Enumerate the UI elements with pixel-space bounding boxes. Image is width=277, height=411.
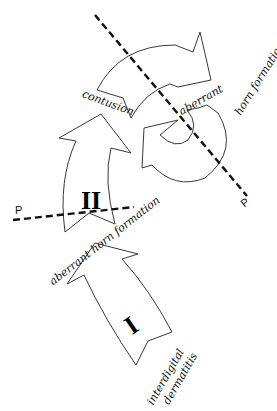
plane-label-top: P	[238, 195, 251, 209]
plane-label-bottom: P	[15, 204, 22, 216]
stage-2-numeral: II	[81, 186, 101, 215]
label-horn-formation-top: horn formation	[232, 39, 277, 117]
diagram-canvas: P P II I contusion aberrant horn formati…	[0, 0, 277, 411]
